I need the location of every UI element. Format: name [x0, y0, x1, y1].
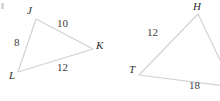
- side-label-jl: 8: [14, 37, 20, 48]
- side-label-jk: 10: [57, 18, 68, 29]
- triangle-jkl-outline: [18, 19, 93, 72]
- vertex-label-h: H: [193, 1, 201, 12]
- side-label-tx: 18: [189, 80, 200, 91]
- side-label-lk: 12: [57, 62, 68, 73]
- triangle-jkl-shape: [18, 19, 93, 72]
- vertex-label-j: J: [27, 5, 32, 16]
- triangle-htx-shape: [139, 14, 220, 87]
- side-label-ht: 12: [147, 27, 158, 38]
- geometry-figure: [0, 0, 220, 101]
- vertex-label-k: K: [96, 40, 103, 51]
- triangle-htx-outline: [139, 14, 220, 87]
- diagram-canvas: J K L 10 8 12 H T 12 18: [0, 0, 220, 101]
- vertex-label-t: T: [129, 64, 135, 75]
- vertex-label-l: L: [9, 70, 15, 81]
